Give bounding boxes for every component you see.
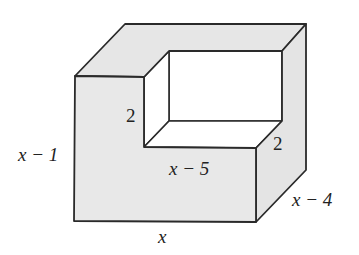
label-height: x − 1 xyxy=(17,144,58,165)
l-shaped-box-diagram: 2 x − 1 x − 5 2 x − 4 x xyxy=(0,0,359,255)
label-cut-depth: 2 xyxy=(273,133,283,154)
label-step-width: x − 5 xyxy=(168,158,209,179)
label-width: x xyxy=(157,226,167,247)
cutout-back-wall xyxy=(169,51,282,121)
label-depth: x − 4 xyxy=(291,189,333,210)
label-cut-height: 2 xyxy=(126,105,136,126)
